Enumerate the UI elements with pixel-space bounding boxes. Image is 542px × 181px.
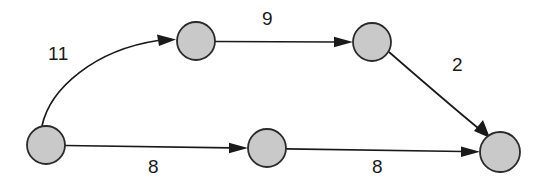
node-group	[27, 22, 520, 172]
edge-d-to-e	[286, 147, 480, 157]
graph-canvas: 11 9 2 8 8	[0, 0, 542, 181]
edge-label-a-to-b: 11	[48, 44, 69, 63]
edge-a-to-d-arrowhead	[229, 143, 248, 153]
edge-a-to-d-path	[65, 146, 231, 148]
edge-label-b-to-c: 9	[262, 9, 273, 28]
node-a[interactable]	[27, 126, 65, 164]
edge-label-a-to-d: 8	[148, 157, 159, 176]
edge-c-to-e	[389, 52, 490, 138]
edge-label-c-to-e: 2	[452, 55, 463, 74]
edge-b-to-c-arrowhead	[334, 37, 353, 47]
edge-b-to-c	[215, 37, 353, 47]
node-c[interactable]	[353, 23, 391, 61]
edge-d-to-e-path	[286, 149, 463, 152]
node-b[interactable]	[177, 22, 215, 60]
edge-a-to-d	[65, 143, 248, 153]
edge-a-to-b-arrowhead	[157, 35, 176, 47]
edge-d-to-e-arrowhead	[461, 147, 480, 157]
edge-c-to-e-path	[389, 52, 478, 128]
edge-b-to-c-path	[215, 42, 336, 43]
node-d[interactable]	[248, 129, 286, 167]
node-e[interactable]	[480, 132, 520, 172]
edge-label-d-to-e: 8	[372, 157, 383, 176]
